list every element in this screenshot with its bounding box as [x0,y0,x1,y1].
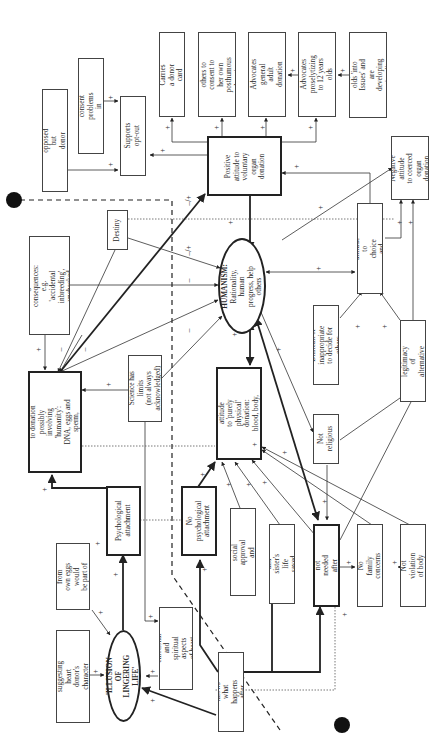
node-next-of-kin: Next of kin consent problems in system n… [78,58,104,154]
node-widespread-social: Widespread social approval and modelling [230,508,256,596]
link-label: + [146,614,155,619]
link-label: + [163,125,172,130]
node-unknown-consequences: Unknown and/or negative consequences: e.… [29,236,70,335]
link-label: + [258,125,267,130]
node-accepts-legitimacy: Accepts legitimacy of alternative views [400,320,426,402]
node-twelve-year-olds: 12 years olds 'into Issues' and are deve… [349,32,387,118]
link-label: –/+ [184,245,193,256]
node-illusion-lingering-life: 'ILLUSION OF LINGERING LIFE' [106,630,141,722]
node-psych-attachment: Psychological attachment [106,486,141,556]
link-label: + [395,220,404,225]
link-label: + [390,560,399,565]
link-label: + [306,125,315,130]
link-label: + [104,382,113,387]
link-label: + [340,612,349,617]
node-body-not-needed: Body not needed after death [313,524,340,607]
link-label: + [274,347,283,352]
link-label: – [184,329,193,333]
node-children-eggs: Children from own eggs would be part of … [56,543,90,610]
node-science-limits: Science has limits (not always acknowled… [128,355,162,422]
node-reluctant-negative: Reluctant negative attitude to donation … [28,371,82,473]
link-label: + [250,442,259,447]
link-label: + [106,162,115,167]
node-carries-card: Carries a donor card [159,32,185,117]
link-label: + [198,472,207,477]
link-label: + [314,266,323,271]
link-label: + [260,480,269,485]
humanism-text: Rationality, human progress, help others [228,266,263,307]
link-label: + [353,324,362,329]
link-label: + [91,669,100,674]
link-label: + [226,220,235,225]
node-own-sister: Own and sister's life saved in past [269,524,295,604]
start-dot [6,192,22,208]
node-desires-consent: Desires others to consent to her own pos… [198,32,236,117]
link-label: –/+ [184,195,193,206]
link-label: + [288,68,297,73]
node-not-religious: Not religious [313,414,339,464]
node-positive-choice: Positive attitude to choice and autonomy [357,203,383,294]
illusion-title: 'ILLUSION OF LINGERING LIFE' [105,655,140,698]
node-many-people: Many people not opposed but donor cards … [42,89,68,192]
link-label: + [320,499,329,504]
link-label: + [316,205,325,210]
link-label: + [148,669,157,674]
node-advocates-12: Advocates proselytizing to 12 years olds [298,32,336,117]
node-negative-coerced: Negative attitude to coerced organ donat… [391,136,429,200]
link-label: – [56,348,65,352]
humanism-title: HUMANISM: [220,264,229,309]
node-humanism: HUMANISM:Rationality, human progress, he… [218,238,266,334]
node-no-psych-attachment: No psychological attachment [181,486,217,556]
link-label: + [280,450,289,455]
link-label: – [184,279,193,283]
node-not-violation: Not violation of body [400,524,426,607]
node-positive-voluntary: Positive attitude to voluntary organ don… [207,136,282,196]
link-label: + [338,68,347,73]
link-label: + [292,164,301,169]
link-label: + [244,482,253,487]
link-label: + [200,567,209,572]
link-label: + [380,324,389,329]
node-supports-optout: Supports opt-out [120,96,146,176]
link-label: + [106,95,115,100]
link-label: + [93,541,102,546]
node-destiny: Destiny [107,210,128,250]
link-label: + [158,148,167,153]
end-dot [334,717,350,733]
link-label: + [34,347,43,352]
link-label: – [80,348,89,352]
node-difficult-decide: Difficult or inappropriate to decide for… [313,305,339,385]
link-label: + [40,487,49,492]
node-advocates-adult: Advocates general adult donation [248,32,286,117]
link-label: + [111,572,120,577]
node-media-cases: Media cases suggesting heart donor's cha… [56,630,90,723]
concept-diagram: Many people not opposed but donor cards … [0,0,442,755]
link-label: + [212,125,221,130]
node-no-family: No family concerns [357,524,383,607]
node-nobody-knows: Nobody knows what happens after death [218,652,244,732]
link-label: + [406,220,415,225]
link-label: + [96,610,105,615]
node-unknown-emotional: Unknown emotional and spiritual aspects … [159,607,193,690]
link-label: + [224,482,233,487]
link-label: + [230,332,239,337]
link-label: + [148,698,157,703]
link-label: + [344,560,353,565]
